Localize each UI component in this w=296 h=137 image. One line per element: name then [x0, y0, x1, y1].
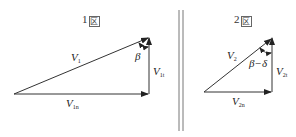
zone2-title: 2区	[234, 14, 252, 27]
zone1-tangential-label: V1t	[153, 66, 164, 78]
zone2-title-char: 区	[241, 16, 252, 27]
zone2-beta-delta-arc	[260, 48, 271, 53]
zone1-beta-arc	[139, 43, 148, 47]
zone1-title: 1区	[82, 14, 100, 27]
zone-separator	[179, 10, 183, 131]
zone1-normal-label: V1n	[66, 98, 79, 110]
zone1-resultant-label: V1	[71, 52, 81, 64]
zone2-title-number: 2	[234, 13, 240, 25]
zone2-resultant-label: V2	[227, 50, 237, 62]
zone1-angle-label: β	[135, 51, 140, 62]
zone1-title-number: 1	[82, 13, 88, 25]
zone1-resultant-vector	[14, 38, 148, 94]
zone2-tangential-label: V2t	[276, 66, 287, 78]
zone1-title-char: 区	[89, 16, 100, 27]
zone1-diagram	[14, 38, 149, 94]
zone2-angle-label: β−δ	[249, 58, 267, 69]
zone2-normal-label: V2n	[232, 96, 245, 108]
